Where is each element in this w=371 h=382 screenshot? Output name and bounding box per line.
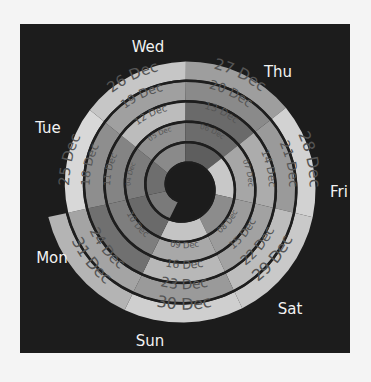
weekday-label-sat: Sat: [278, 300, 303, 318]
weekday-label-mon: Mon: [36, 249, 68, 267]
weekday-label-fri: Fri: [330, 183, 348, 201]
spiral-calendar-chart: 04 Dec05 Dec06 Dec07 Dec08 Dec09 Dec10 D…: [0, 0, 371, 382]
date-label: 30 Dec: [155, 292, 213, 314]
weekday-label-thu: Thu: [263, 63, 292, 81]
weekday-label-tue: Tue: [34, 119, 61, 137]
date-label: 16 Dec: [164, 256, 204, 271]
date-label: 23 Dec: [160, 273, 209, 292]
weekday-label-wed: Wed: [132, 38, 165, 56]
date-label: 09 Dec: [169, 238, 200, 250]
weekday-label-sun: Sun: [136, 332, 165, 350]
